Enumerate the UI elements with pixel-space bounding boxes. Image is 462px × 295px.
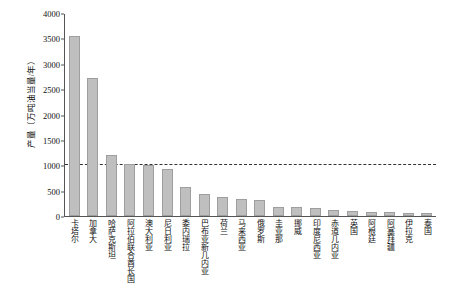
y-tick-label: 4000 (43, 9, 60, 19)
bar-slot (362, 14, 381, 216)
bar (69, 36, 80, 216)
x-label-slot: 赤道几内亚 (324, 219, 343, 291)
x-tick-label: 阿拉伯联合酋长国 (125, 219, 133, 291)
bar (403, 213, 414, 216)
bar (254, 200, 265, 216)
x-label-slot: 巴布亚新几内亚 (194, 219, 213, 291)
bar-slot (325, 14, 344, 216)
bar-series (65, 14, 436, 216)
x-label-slot: 阿根廷 (362, 219, 381, 291)
x-label-slot: 伊拉克 (399, 219, 418, 291)
bar-slot (250, 14, 269, 216)
bar-slot (158, 14, 177, 216)
bar-slot (306, 14, 325, 216)
x-label-slot: 泰国 (417, 219, 436, 291)
y-axis: 05001000150020002500300035004000 (0, 14, 64, 217)
bar-slot (102, 14, 121, 216)
x-label-slot: 澳大利亚 (138, 219, 157, 291)
x-tick-label: 俄罗斯 (255, 219, 263, 291)
bar-chart: 产量（万吨油当量/年） 0500100015002000250030003500… (0, 0, 462, 295)
bar-slot (65, 14, 84, 216)
y-tick-label: 0 (56, 212, 60, 222)
x-label-slot: 委内瑞拉 (176, 219, 195, 291)
x-label-slot: 哈萨克斯坦 (101, 219, 120, 291)
x-tick-label: 阿根廷 (367, 219, 375, 291)
bar-slot (195, 14, 214, 216)
x-tick-label: 印度尼西亚 (311, 219, 319, 291)
x-tick-label: 荷兰 (218, 219, 226, 291)
bar-slot (121, 14, 140, 216)
x-tick-label: 澳大利亚 (144, 219, 152, 291)
x-label-slot: 俄罗斯 (250, 219, 269, 291)
x-label-slot: 英国 (343, 219, 362, 291)
bar-slot (343, 14, 362, 216)
bar-slot (232, 14, 251, 216)
y-tick-label: 500 (47, 187, 60, 197)
bar (162, 169, 173, 216)
y-tick-label: 3500 (43, 34, 60, 44)
y-tick-label: 2000 (43, 111, 60, 121)
x-tick-label: 马来西亚 (237, 219, 245, 291)
bar (106, 155, 117, 216)
bar-slot (176, 14, 195, 216)
y-tick-label: 2500 (43, 85, 60, 95)
bar-slot (399, 14, 418, 216)
bar (199, 194, 210, 216)
bar (236, 199, 247, 216)
bar (310, 208, 321, 216)
x-label-slot: 荷兰 (213, 219, 232, 291)
bar (328, 210, 339, 216)
x-tick-label: 挪威 (292, 219, 300, 291)
x-axis-labels: 卡塔尔加拿大哈萨克斯坦阿拉伯联合酋长国澳大利亚尼日利亚委内瑞拉巴布亚新几内亚荷兰… (64, 219, 436, 291)
bar (180, 187, 191, 216)
y-tick-label: 1000 (43, 161, 60, 171)
bar-slot (139, 14, 158, 216)
x-tick-label: 巴布亚新几内亚 (199, 219, 207, 291)
x-tick-label: 圭亚那 (274, 219, 282, 291)
x-tick-label: 加拿大 (88, 219, 96, 291)
x-tick-label: 尼日利亚 (162, 219, 170, 291)
x-label-slot: 挪威 (287, 219, 306, 291)
bar-slot (288, 14, 307, 216)
bar (217, 197, 228, 216)
bar (384, 212, 395, 216)
x-label-slot: 尼日利亚 (157, 219, 176, 291)
bar-slot (213, 14, 232, 216)
x-tick-label: 哈萨克斯坦 (106, 219, 114, 291)
bar-slot (417, 14, 436, 216)
x-label-slot: 印度尼西亚 (306, 219, 325, 291)
y-tick-label: 3000 (43, 60, 60, 70)
bar (347, 211, 358, 216)
bar (273, 207, 284, 216)
x-label-slot: 阿塞拜疆 (380, 219, 399, 291)
bar-slot (269, 14, 288, 216)
x-label-slot: 卡塔尔 (64, 219, 83, 291)
x-tick-label: 阿塞拜疆 (385, 219, 393, 291)
x-tick-label: 赤道几内亚 (330, 219, 338, 291)
plot-area (64, 14, 436, 217)
x-label-slot: 马来西亚 (231, 219, 250, 291)
bar (87, 78, 98, 216)
x-tick-label: 泰国 (423, 219, 431, 291)
bar (124, 164, 135, 216)
x-tick-label: 委内瑞拉 (181, 219, 189, 291)
x-tick-label: 英国 (348, 219, 356, 291)
x-tick-label: 卡塔尔 (69, 219, 77, 291)
bar-slot (84, 14, 103, 216)
y-tick-label: 1500 (43, 136, 60, 146)
x-label-slot: 加拿大 (83, 219, 102, 291)
bar (421, 213, 432, 216)
bar (366, 212, 377, 216)
bar-slot (380, 14, 399, 216)
x-label-slot: 圭亚那 (269, 219, 288, 291)
bar (143, 165, 154, 216)
bar (291, 207, 302, 216)
x-tick-label: 伊拉克 (404, 219, 412, 291)
x-label-slot: 阿拉伯联合酋长国 (120, 219, 139, 291)
